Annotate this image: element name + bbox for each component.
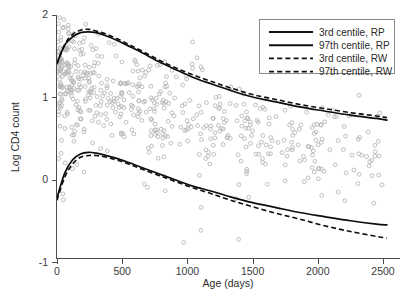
legend-label: 97th centile, RW bbox=[319, 66, 393, 77]
x-tick-label: 1500 bbox=[241, 265, 265, 277]
legend-label: 97th centile, RP bbox=[319, 40, 390, 51]
chart-figure: 05001000150020002500 -1012 Age (days) Lo… bbox=[0, 0, 410, 302]
y-tick-label: 0 bbox=[42, 173, 48, 185]
y-tick-label: -1 bbox=[39, 256, 48, 268]
y-tick-label: 1 bbox=[42, 91, 48, 103]
x-tick-label: 2000 bbox=[306, 265, 330, 277]
y-tick-label: 2 bbox=[42, 8, 48, 20]
legend-label: 3rd centile, RP bbox=[319, 27, 385, 38]
x-tick-label: 1000 bbox=[176, 265, 200, 277]
x-tick-label: 2500 bbox=[371, 265, 395, 277]
x-tick-label: 500 bbox=[113, 265, 131, 277]
chart-svg: 05001000150020002500 -1012 Age (days) Lo… bbox=[0, 0, 410, 302]
x-axis-title: Age (days) bbox=[203, 277, 254, 289]
x-tick-label: 0 bbox=[54, 265, 60, 277]
legend[interactable]: 3rd centile, RP97th centile, RP3rd centi… bbox=[260, 20, 395, 78]
y-axis-title: Log CD4 count bbox=[9, 102, 21, 172]
legend-label: 3rd centile, RW bbox=[319, 53, 388, 64]
